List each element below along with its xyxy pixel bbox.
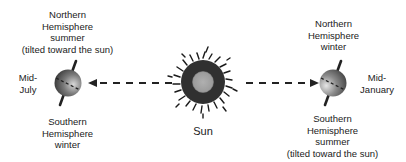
sun-label: Sun bbox=[183, 126, 223, 138]
label-line: January bbox=[355, 84, 399, 96]
right-top-label: Northern Hemisphere winter bbox=[296, 18, 371, 53]
arrow-to-right-earth bbox=[246, 79, 319, 87]
left-bottom-label: Southern Hemisphere winter bbox=[30, 116, 105, 151]
left-earth-icon bbox=[55, 61, 82, 105]
label-line: Northern bbox=[296, 18, 371, 30]
label-line: Mid- bbox=[14, 72, 42, 84]
label-line: Sun bbox=[183, 126, 223, 138]
label-line: (tilted toward the sun) bbox=[275, 148, 390, 160]
label-line: Hemisphere bbox=[10, 21, 125, 33]
sun-icon bbox=[168, 47, 237, 118]
label-line: Southern bbox=[30, 116, 105, 128]
label-line: summer bbox=[10, 32, 125, 44]
label-line: Northern bbox=[10, 9, 125, 21]
label-line: July bbox=[14, 84, 42, 96]
arrow-to-left-earth bbox=[88, 79, 172, 87]
left-top-label: Northern Hemisphere summer (tilted towar… bbox=[10, 9, 125, 55]
label-line: winter bbox=[296, 41, 371, 53]
right-bottom-label: Southern Hemisphere summer (tilted towar… bbox=[275, 113, 390, 159]
right-earth-icon bbox=[320, 61, 347, 105]
label-line: summer bbox=[275, 136, 390, 148]
left-date-label: Mid- July bbox=[14, 72, 42, 95]
label-line: Hemisphere bbox=[30, 128, 105, 140]
label-line: Southern bbox=[275, 113, 390, 125]
right-date-label: Mid- January bbox=[355, 72, 399, 95]
label-line: Hemisphere bbox=[275, 125, 390, 137]
label-line: Mid- bbox=[355, 72, 399, 84]
label-line: winter bbox=[30, 139, 105, 151]
label-line: (tilted toward the sun) bbox=[10, 44, 125, 56]
label-line: Hemisphere bbox=[296, 30, 371, 42]
